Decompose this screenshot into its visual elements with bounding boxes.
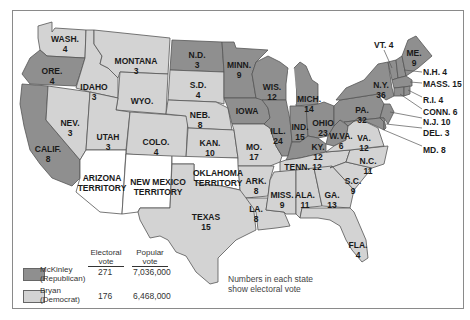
state-name: GA.: [324, 190, 339, 200]
state-votes: 36: [376, 90, 385, 100]
state-name: NEB.: [190, 110, 210, 120]
label-mo: MO.17: [246, 142, 262, 162]
note-line: Numbers in each state: [228, 274, 313, 284]
state-votes: 4: [50, 76, 55, 86]
legend-header-electoral: Electoralvote: [88, 248, 124, 267]
label-la: LA.8: [249, 204, 263, 224]
state-name: ORE.: [42, 66, 63, 76]
state-votes: 4: [154, 147, 159, 157]
candidate-name: McKinley: [40, 265, 72, 274]
state-name: COLO.: [143, 137, 170, 147]
state-votes: 24: [273, 136, 282, 146]
label-calif: CALIF.8: [35, 144, 61, 164]
state-name: MINN.: [227, 60, 251, 70]
label-pa: PA.32: [355, 105, 369, 125]
label-nc: N.C.11: [360, 156, 377, 176]
label-vt: VT. 4: [374, 40, 393, 50]
state-name: FLA.: [349, 240, 368, 250]
state-name: UTAH: [97, 132, 120, 142]
state-votes: 12: [313, 152, 322, 162]
label-fla: FLA.4: [349, 240, 368, 260]
label-iowa: IOWA: [236, 106, 259, 116]
header-line: Popular: [136, 248, 164, 257]
label-mass: MASS. 15: [423, 79, 462, 89]
state-name: ARK.: [246, 176, 267, 186]
territory-type: TERRITORY: [194, 178, 243, 188]
label-wash: WASH.4: [51, 34, 79, 54]
state-votes: 11: [364, 166, 373, 176]
state-name: MONTANA: [115, 56, 158, 66]
label-ore: ORE.4: [42, 66, 63, 86]
state-name: VA.: [357, 133, 371, 143]
state-votes: 3: [134, 66, 139, 76]
state-votes: 23: [318, 128, 327, 138]
state-votes: 3: [68, 128, 73, 138]
label-wis: WIS.12: [263, 82, 281, 102]
label-wva: W.VA.6: [329, 131, 352, 151]
state-name: N.D.: [189, 50, 206, 60]
state-votes: 8: [198, 120, 203, 130]
state-votes: 14: [304, 104, 313, 114]
state-name: S.C.: [345, 176, 362, 186]
state-votes: 4: [356, 250, 361, 260]
state-name: MICH.: [297, 94, 321, 104]
header-line: vote: [142, 257, 157, 266]
legend-header-popular: Popularvote: [132, 248, 168, 267]
state-votes: 8: [254, 214, 259, 224]
header-line: vote: [98, 257, 113, 266]
label-miss: MISS.9: [270, 190, 293, 210]
header-line: Electoral: [90, 248, 121, 257]
label-nj: N.J. 10: [423, 117, 450, 127]
state-votes: 8: [46, 154, 51, 164]
label-neb: NEB.8: [190, 110, 210, 130]
state-votes: 3: [92, 92, 97, 102]
state-votes: 32: [357, 115, 366, 125]
label-sc: S.C.9: [345, 176, 362, 196]
state-name: ALA.: [295, 190, 315, 200]
label-ark: ARK.8: [246, 176, 267, 196]
state-votes: 12: [267, 92, 276, 102]
state-votes: 9: [280, 200, 285, 210]
state-votes: 4: [196, 90, 201, 100]
state-name: IOWA: [236, 106, 259, 116]
state-name: MISS.: [270, 190, 293, 200]
state-votes: 17: [249, 152, 258, 162]
state-name: WYO.: [131, 96, 154, 106]
label-nev: NEV.3: [60, 118, 79, 138]
state-name: N.Y.: [373, 80, 389, 90]
mckinley-popular: 7,036,000: [133, 267, 171, 277]
state-votes: 8: [254, 186, 259, 196]
state-name: TEXAS: [192, 212, 220, 222]
state-name: N.C.: [360, 156, 377, 166]
label-ind: IND.15: [292, 122, 309, 142]
state-votes: 3: [195, 60, 200, 70]
state-name: ILL.: [270, 126, 285, 136]
state-name: WIS.: [263, 82, 281, 92]
label-ill: ILL.24: [270, 126, 285, 146]
state-name: WASH.: [51, 34, 79, 44]
state-name: PA.: [355, 105, 369, 115]
state-votes: 10: [205, 148, 214, 158]
label-new-mexico: NEW MEXICOTERRITORY: [130, 177, 186, 197]
map-note: Numbers in each stateshow electoral vote: [228, 274, 313, 294]
state-name: NEV.: [60, 118, 79, 128]
bryan-popular: 6,468,000: [133, 291, 171, 301]
label-sd: S.D.4: [190, 80, 207, 100]
legend-label-bryan: Bryan(Democrat): [40, 286, 80, 304]
state-votes: 13: [327, 200, 336, 210]
state-votes: 6: [339, 141, 344, 151]
territory-type: TERRITORY: [134, 187, 183, 197]
label-arizona: ARIZONATERRITORY: [78, 173, 127, 193]
state-votes: 15: [201, 222, 210, 232]
label-colo: COLO.4: [143, 137, 170, 157]
state-votes: 12: [359, 143, 368, 153]
legend-label-mckinley: McKinley(Republican): [40, 265, 85, 283]
note-line: show electoral vote: [228, 284, 301, 294]
label-oklahoma: OKLAHOMATERRITORY: [193, 168, 243, 188]
territory-name: NEW MEXICO: [130, 177, 186, 187]
state-name: KY.: [311, 142, 324, 152]
label-idaho: IDAHO3: [80, 82, 107, 102]
state-name: TENN. 12: [284, 162, 321, 172]
state-votes: 15: [295, 132, 304, 142]
label-tenn: TENN. 12: [284, 162, 321, 172]
